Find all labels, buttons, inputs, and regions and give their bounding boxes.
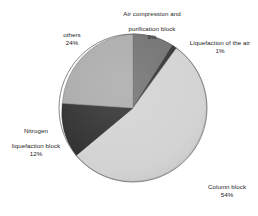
pie-label-nitrogen-liquefaction-line2: liquefaction block [12,142,60,149]
pie-label-liquefaction-of-air: Liquefaction of the air 1% [182,32,258,62]
pie-label-column-block: Column block 54% [198,176,256,206]
screenshot-root: Air compression and purification block 9… [0,0,258,216]
pie-label-liquefaction-of-air-value: 1% [182,47,258,54]
pie-label-column-block-value: 54% [198,191,256,198]
pie-label-air-compression-line2: purification block [129,25,176,32]
pie-label-nitrogen-liquefaction-line1: Nitrogen [24,127,48,134]
pie-label-column-block-line1: Column block [208,183,246,190]
pie-label-liquefaction-of-air-line1: Liquefaction of the air [190,39,250,46]
pie-chart: Air compression and purification block 9… [0,0,258,216]
pie-label-others-value: 24% [44,39,100,46]
pie-label-others-line1: others [63,31,81,38]
pie-label-others: others 24% [44,24,100,54]
pie-label-nitrogen-liquefaction-value: 12% [2,150,70,157]
pie-label-nitrogen-liquefaction: Nitrogen liquefaction block 12% [2,120,70,164]
pie-label-air-compression-line1: Air compression and [123,10,180,17]
